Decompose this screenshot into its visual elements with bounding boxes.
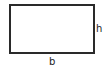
rectangle-shape (9, 4, 95, 54)
height-label: h (96, 24, 102, 34)
base-label: b (49, 57, 55, 67)
